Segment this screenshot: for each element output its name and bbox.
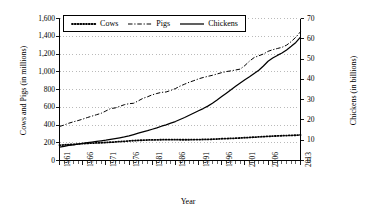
legend-label: Cows	[100, 20, 118, 28]
y-axis-right-tick-label: 30	[307, 95, 337, 104]
legend-label: Pigs	[156, 20, 170, 28]
legend-entry-chickens: Chickens	[179, 20, 238, 28]
series-line-chickens	[60, 37, 301, 147]
y-axis-left-tick-label: 0	[10, 156, 55, 165]
x-axis-tick-label: 1961	[63, 152, 72, 167]
legend-entry-pigs: Pigs	[127, 20, 170, 28]
y-axis-right-tick-label: 60	[307, 34, 337, 43]
y-axis-right-tick-label: 20	[307, 115, 337, 124]
legend-label: Chickens	[208, 20, 238, 28]
x-axis-tick-label: 1976	[132, 152, 141, 167]
y-axis-right-title: Chickens (in billions)	[349, 16, 358, 166]
series-line-cows	[60, 135, 301, 145]
y-axis-right-tick-label: 50	[307, 54, 337, 63]
gridlines	[60, 19, 301, 143]
legend-swatch-solid-icon	[179, 20, 205, 28]
chart-figure: Cows and Pigs (in millions) Chickens (in…	[0, 0, 376, 215]
y-axis-left-tick-label: 600	[10, 102, 55, 111]
y-axis-left-tick-label: 800	[10, 85, 55, 94]
x-axis-tick-label: 2001	[248, 152, 257, 167]
y-axis-left-tick-label: 1,400	[10, 31, 55, 40]
x-axis-tick-label: 1981	[155, 152, 164, 167]
y-axis-left-tick-label: 400	[10, 120, 55, 129]
chart-plot-area	[0, 0, 376, 215]
y-axis-left-tick-label: 1,600	[10, 14, 55, 23]
x-axis-tick-label: 1971	[109, 152, 118, 167]
y-axis-right-tick-label: 40	[307, 74, 337, 83]
x-axis-tick-label: 1966	[86, 152, 95, 167]
chart-legend: CowsPigsChickens	[63, 15, 246, 32]
y-axis-right-tick-label: 70	[307, 14, 337, 23]
x-axis-tick-label: 1991	[202, 152, 211, 167]
y-axis-left-tick-label: 1,200	[10, 49, 55, 58]
x-axis-tick-label: 2013	[304, 152, 313, 167]
y-axis-left-tick-label: 1,000	[10, 67, 55, 76]
y-axis-right-tick-label: 10	[307, 135, 337, 144]
x-axis-title: Year	[0, 197, 376, 206]
legend-entry-cows: Cows	[71, 20, 118, 28]
series-line-pigs	[60, 32, 301, 127]
x-axis-tick-label: 2006	[271, 152, 280, 167]
legend-swatch-dash-dot-icon	[127, 20, 153, 28]
legend-swatch-dotted-icon	[71, 20, 97, 28]
x-axis-tick-label: 1996	[225, 152, 234, 167]
y-axis-left-tick-label: 200	[10, 138, 55, 147]
x-axis-tick-label: 1986	[178, 152, 187, 167]
